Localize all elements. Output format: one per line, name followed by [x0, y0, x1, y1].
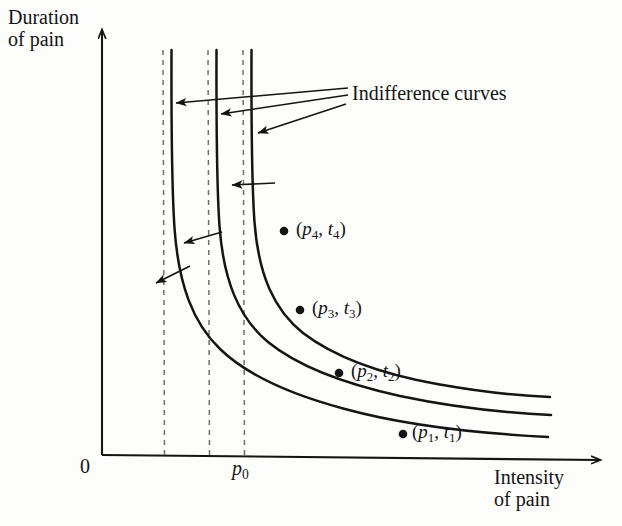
p1-comma: , [434, 421, 444, 442]
y-axis-title-line2: of pain [8, 28, 79, 50]
x-tick-label-p0-base: p [232, 457, 242, 479]
data-point-label-p1: (p1, t1) [412, 421, 462, 445]
data-point-marker-p1 [399, 430, 408, 439]
y-axis-title-line1: Duration [8, 6, 79, 28]
x-tick-label-p0: p0 [232, 457, 249, 482]
p3-close-paren: ) [356, 297, 362, 318]
x-axis-title: Intensity of pain [494, 466, 564, 511]
chart-canvas [0, 0, 622, 526]
indifference-curves-figure: Duration of pain Intensity of pain 0 p0 … [0, 0, 622, 526]
data-point-marker-p3 [296, 306, 305, 315]
leader-arrow-to-curve-3 [258, 104, 346, 133]
leader-arrow-to-curve-1 [176, 88, 348, 103]
direction-arrow-curve-3 [232, 183, 275, 185]
p2-close-paren: ) [395, 360, 401, 381]
direction-arrow-curve-2 [184, 232, 222, 243]
data-point-markers [280, 227, 408, 439]
caption-leader-arrows [176, 88, 348, 133]
x-axis [102, 455, 600, 460]
asymptote-line-2 [208, 50, 210, 456]
p2-p: p [357, 360, 367, 381]
p4-close-paren: ) [340, 218, 346, 239]
data-point-label-p3: (p3, t3) [312, 297, 362, 321]
x-axis-title-line2: of pain [494, 488, 564, 510]
x-axis-title-line1: Intensity [494, 466, 564, 488]
p1-close-paren: ) [456, 421, 462, 442]
origin-label: 0 [80, 455, 90, 477]
x-axis-line [102, 455, 600, 460]
y-axis-title: Duration of pain [8, 6, 79, 51]
asymptote-line-1 [163, 50, 165, 456]
p3-p: p [318, 297, 328, 318]
direction-arrow-curve-1 [156, 266, 190, 283]
p3-comma: , [334, 297, 344, 318]
x-tick-label-p0-subscript: 0 [242, 467, 249, 482]
p4-p: p [302, 218, 312, 239]
p2-comma: , [373, 360, 383, 381]
p4-comma: , [318, 218, 328, 239]
asymptote-lines [163, 50, 245, 457]
data-point-marker-p4 [280, 227, 289, 236]
data-point-label-p4: (p4, t4) [296, 218, 346, 242]
p1-p: p [418, 421, 428, 442]
indifference-curves-caption: Indifference curves [352, 82, 507, 104]
data-point-label-p2: (p2, t2) [351, 360, 401, 384]
data-point-marker-p2 [335, 369, 344, 378]
